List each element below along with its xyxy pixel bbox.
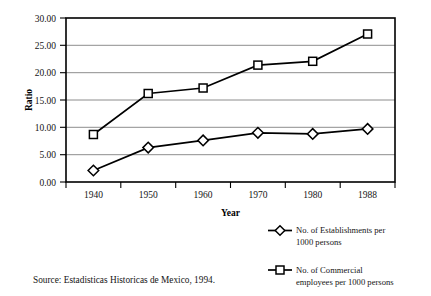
x-tick-marks: [66, 182, 395, 188]
data-point-marker: [89, 131, 97, 139]
data-point-marker: [364, 30, 372, 38]
data-point-marker: [199, 84, 207, 92]
series-markers-establishments: [88, 124, 373, 176]
series-line-establishments: [93, 129, 367, 171]
data-point-marker: [309, 57, 317, 65]
y-tick-label: 30.00: [35, 14, 57, 24]
legend-entry-establishments[interactable]: No. of Establishments per 1000 persons: [268, 225, 385, 247]
y-axis-labels: 30.00 25.00 20.00 15.00 10.00 5.00 0.00: [35, 14, 57, 188]
x-tick-label: 1940: [84, 190, 103, 200]
gridlines: [66, 45, 395, 154]
x-tick-label: 1970: [248, 190, 267, 200]
x-tick-label: 1988: [358, 190, 377, 200]
x-tick-label: 1980: [303, 190, 322, 200]
chart-container: 30.00 25.00 20.00 15.00 10.00 5.00 0.00 …: [0, 0, 431, 296]
x-axis-labels: 1940 1950 1960 1970 1980 1988: [84, 190, 377, 200]
data-point-marker: [143, 142, 154, 153]
y-tick-label: 10.00: [35, 123, 57, 133]
source-note: Source: Estadisticas Historicas de Mexic…: [33, 275, 215, 285]
legend-label-line1: No. of Commercial: [296, 265, 363, 275]
diamond-marker-icon: [275, 226, 285, 236]
y-axis-title: Ratio: [24, 89, 34, 111]
y-tick-label: 20.00: [35, 68, 57, 78]
data-point-marker: [88, 165, 99, 176]
data-point-marker: [307, 129, 318, 140]
y-tick-label: 15.00: [35, 96, 57, 106]
y-tick-marks: [60, 18, 66, 182]
x-tick-label: 1960: [194, 190, 213, 200]
series-line-commercial-employees: [93, 34, 367, 135]
data-point-marker: [198, 135, 209, 146]
y-tick-label: 0.00: [39, 178, 56, 188]
legend-label-line2: employees per 1000 persons: [296, 277, 394, 287]
legend-label-line2: 1000 persons: [296, 237, 342, 247]
series-markers-commercial-employees: [89, 30, 371, 139]
data-point-marker: [144, 90, 152, 98]
legend-entry-commercial-employees[interactable]: No. of Commercial employees per 1000 per…: [268, 265, 394, 287]
y-tick-label: 25.00: [35, 41, 57, 51]
y-tick-label: 5.00: [39, 150, 56, 160]
data-point-marker: [253, 128, 264, 139]
line-chart: 30.00 25.00 20.00 15.00 10.00 5.00 0.00 …: [0, 0, 431, 296]
data-point-marker: [362, 124, 373, 135]
square-marker-icon: [276, 266, 284, 274]
legend-label-line1: No. of Establishments per: [296, 225, 385, 235]
x-tick-label: 1950: [139, 190, 158, 200]
x-axis-title: Year: [221, 208, 241, 218]
data-point-marker: [254, 61, 262, 69]
